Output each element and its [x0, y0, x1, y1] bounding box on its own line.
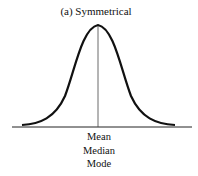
mode-label: Mode — [0, 157, 198, 170]
mean-label: Mean — [0, 130, 198, 143]
bell-curve — [22, 25, 175, 125]
median-label: Median — [0, 144, 198, 157]
